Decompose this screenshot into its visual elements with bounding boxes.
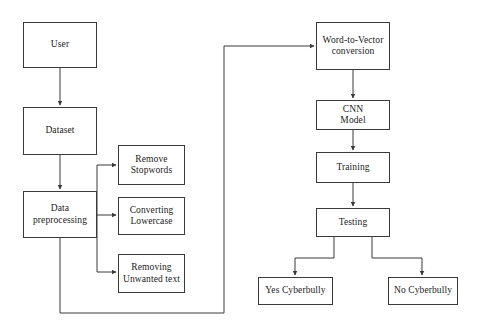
- node-yes-cyberbully[interactable]: Yes Cyberbully: [258, 277, 333, 305]
- node-cnn-model[interactable]: CNN Model: [316, 100, 390, 130]
- edge-testing-yes-cyberbully: [295, 237, 334, 275]
- node-remove-stopwords-label: Remove Stopwords: [128, 154, 176, 176]
- edge-testing-no-cyberbully: [372, 237, 422, 275]
- node-testing[interactable]: Testing: [316, 208, 390, 237]
- node-converting-lowercase[interactable]: Converting Lowercase: [118, 197, 185, 235]
- node-user[interactable]: User: [23, 22, 97, 68]
- node-removing-unwanted-text[interactable]: Removing Unwanted text: [118, 254, 185, 293]
- node-training[interactable]: Training: [316, 152, 390, 183]
- node-dataset[interactable]: Dataset: [23, 107, 97, 155]
- node-converting-lowercase-label: Converting Lowercase: [127, 205, 177, 227]
- node-cnn-model-label: CNN Model: [337, 104, 368, 126]
- node-testing-label: Testing: [336, 217, 371, 228]
- node-word-to-vector-conversion[interactable]: Word-to-Vector conversion: [316, 22, 390, 70]
- node-word-to-vector-conversion-label: Word-to-Vector conversion: [320, 35, 387, 57]
- node-remove-stopwords[interactable]: Remove Stopwords: [118, 145, 185, 185]
- flowchart-canvas: User Dataset Data preprocessing Remove S…: [0, 0, 484, 328]
- node-data-preprocessing[interactable]: Data preprocessing: [23, 191, 97, 238]
- edge-preprocessing-word-to-vector: [60, 46, 314, 313]
- node-no-cyberbully-label: No Cyberbully: [391, 285, 455, 296]
- node-user-label: User: [48, 39, 72, 50]
- node-training-label: Training: [333, 162, 372, 173]
- node-yes-cyberbully-label: Yes Cyberbully: [262, 285, 328, 296]
- node-dataset-label: Dataset: [42, 125, 77, 136]
- node-data-preprocessing-label: Data preprocessing: [30, 203, 90, 225]
- node-no-cyberbully[interactable]: No Cyberbully: [388, 277, 458, 305]
- node-removing-unwanted-text-label: Removing Unwanted text: [120, 262, 183, 284]
